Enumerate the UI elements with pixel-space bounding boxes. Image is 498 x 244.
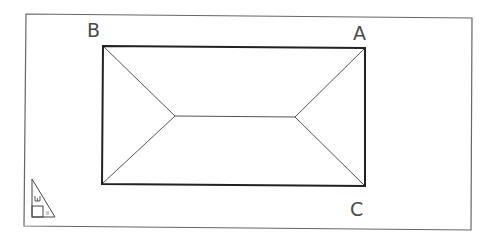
corner-label-a: A <box>353 24 366 43</box>
hip-line-top-left[interactable] <box>104 47 175 116</box>
ridge-line[interactable] <box>175 116 295 117</box>
ucs-paper-space-icon <box>32 179 55 217</box>
hip-line-bottom-right[interactable] <box>295 117 364 185</box>
corner-label-b: B <box>87 21 100 40</box>
hip-line-top-right[interactable] <box>295 49 364 117</box>
drawing-canvas <box>0 0 498 244</box>
hip-line-bottom-left[interactable] <box>103 116 175 183</box>
corner-label-c: C <box>350 200 363 219</box>
